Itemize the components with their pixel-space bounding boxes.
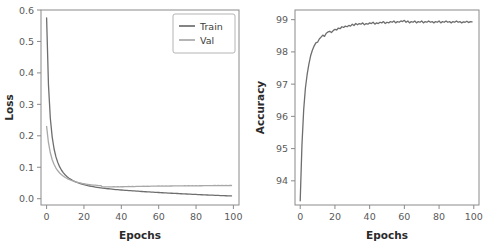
x-tick-label: 40 <box>115 211 127 222</box>
x-tick-label: 20 <box>78 211 90 222</box>
loss-panel: 0204060801000.00.10.20.30.40.50.6EpochsL… <box>0 0 247 248</box>
x-tick-label: 80 <box>433 211 445 222</box>
loss-chart-svg: 0204060801000.00.10.20.30.40.50.6EpochsL… <box>0 0 247 248</box>
y-tick-label: 97 <box>276 79 288 90</box>
x-axis-title: Epochs <box>366 229 408 241</box>
accuracy-panel: 020406080100949596979899EpochsAccuracy <box>247 0 493 248</box>
x-tick-label: 80 <box>190 211 202 222</box>
x-tick-label: 100 <box>465 211 483 222</box>
y-tick-label: 0.5 <box>19 36 34 47</box>
x-axis-title: Epochs <box>119 229 161 241</box>
x-tick-label: 0 <box>297 211 303 222</box>
y-axis-title: Loss <box>3 94 15 120</box>
accuracy-chart-svg: 020406080100949596979899EpochsAccuracy <box>247 0 493 248</box>
series-line-accuracy <box>300 20 472 201</box>
legend-label-val: Val <box>200 35 214 46</box>
y-tick-label: 0.4 <box>19 67 34 78</box>
y-tick-label: 0.1 <box>19 162 34 173</box>
y-axis-title: Accuracy <box>254 81 266 135</box>
x-tick-label: 0 <box>44 211 50 222</box>
y-tick-label: 0.6 <box>19 5 34 16</box>
y-tick-label: 0.2 <box>19 130 34 141</box>
series-line-val <box>47 126 232 187</box>
y-tick-label: 0.3 <box>19 99 34 110</box>
y-tick-label: 94 <box>276 175 288 186</box>
x-tick-label: 60 <box>398 211 410 222</box>
legend-label-train: Train <box>199 21 223 32</box>
figure-container: 0204060801000.00.10.20.30.40.50.6EpochsL… <box>0 0 493 248</box>
y-tick-label: 0.0 <box>19 193 34 204</box>
y-tick-label: 98 <box>276 46 288 57</box>
x-tick-label: 20 <box>329 211 341 222</box>
y-tick-label: 95 <box>276 143 288 154</box>
plot-frame <box>295 10 479 205</box>
x-tick-label: 40 <box>364 211 376 222</box>
x-tick-label: 100 <box>224 211 242 222</box>
x-tick-label: 60 <box>153 211 165 222</box>
y-tick-label: 99 <box>276 14 288 25</box>
y-tick-label: 96 <box>276 111 288 122</box>
